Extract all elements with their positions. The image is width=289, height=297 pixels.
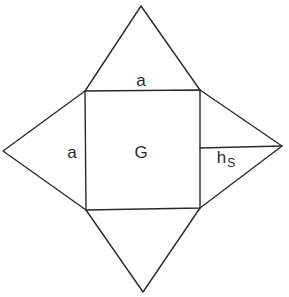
side-height-label-subscript: S — [227, 156, 235, 170]
side-height-line — [200, 146, 282, 148]
left-side-label: a — [67, 144, 76, 161]
base-label: G — [134, 144, 147, 161]
side-height-label-main: h — [217, 148, 226, 167]
pyramid-net-diagram: a a G hS — [0, 0, 289, 297]
side-height-label: hS — [217, 149, 235, 169]
bottom-triangle-face — [86, 208, 200, 292]
right-triangle-face — [200, 90, 282, 208]
top-side-label: a — [136, 72, 145, 89]
